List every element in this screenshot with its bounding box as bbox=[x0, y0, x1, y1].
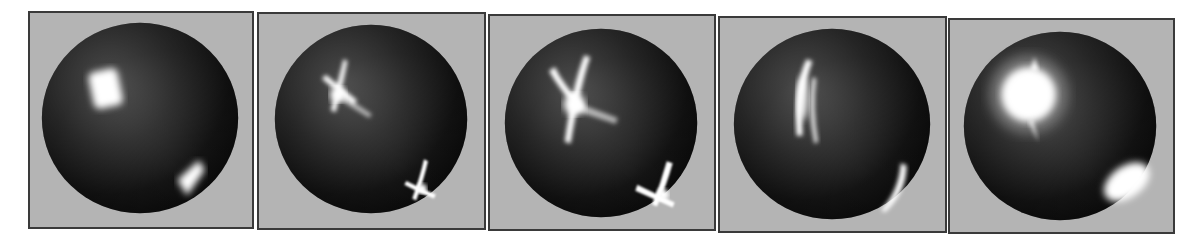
sphere-image-cross-star-large bbox=[490, 16, 714, 229]
sphere-panel-1 bbox=[28, 11, 254, 229]
sphere-image-soft-square bbox=[30, 13, 252, 227]
sphere-panel-4 bbox=[718, 16, 947, 233]
sphere-panel-3 bbox=[488, 14, 716, 231]
sphere-image-broad-glow bbox=[950, 20, 1173, 232]
sphere-panel-5 bbox=[948, 18, 1175, 234]
sphere-image-cross-star bbox=[259, 14, 484, 228]
sphere-panel-2 bbox=[257, 12, 486, 230]
sphere-image-vertical-streak bbox=[720, 18, 945, 231]
